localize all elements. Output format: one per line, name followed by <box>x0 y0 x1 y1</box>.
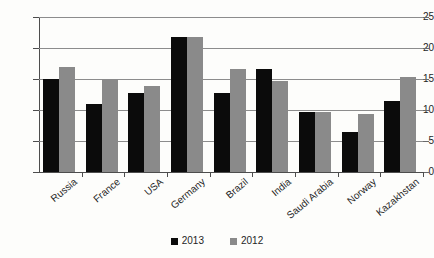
x-label-germany: Germany <box>169 176 208 211</box>
bar-group <box>124 17 167 172</box>
legend-item-2013[interactable]: 2013 <box>171 236 204 246</box>
bar-usa-2012[interactable] <box>144 86 160 172</box>
bar-chart: 25 20 15 10 5 0 RussiaFranceUSAGermanyBr… <box>0 0 434 258</box>
bar-norway-2012[interactable] <box>358 114 374 172</box>
bar-india-2013[interactable] <box>256 69 272 172</box>
black-square-icon <box>171 238 178 245</box>
bar-group <box>252 17 295 172</box>
bar-germany-2013[interactable] <box>171 37 187 172</box>
gray-square-icon <box>230 238 237 245</box>
plot-area <box>39 17 423 172</box>
bar-group <box>295 17 338 172</box>
x-label-kazakhstan: Kazakhstan <box>374 176 421 218</box>
x-tick-mark <box>210 172 211 177</box>
bar-saudi-arabia-2013[interactable] <box>299 112 315 172</box>
x-tick-mark <box>380 172 381 177</box>
x-label-russia: Russia <box>49 176 79 204</box>
bar-group <box>380 17 423 172</box>
bar-kazakhstan-2013[interactable] <box>384 101 400 172</box>
bar-group <box>39 17 82 172</box>
legend-label: 2012 <box>241 236 263 246</box>
x-label-india: India <box>269 176 293 198</box>
bar-brazil-2012[interactable] <box>230 69 246 172</box>
x-tick-mark <box>252 172 253 177</box>
bar-russia-2012[interactable] <box>59 67 75 172</box>
x-tick-mark <box>82 172 83 177</box>
x-tick-mark <box>167 172 168 177</box>
bar-kazakhstan-2012[interactable] <box>400 77 416 172</box>
bar-france-2012[interactable] <box>102 79 118 172</box>
x-tick-mark <box>423 172 424 177</box>
chart-legend: 2013 2012 <box>0 236 434 246</box>
bar-norway-2013[interactable] <box>342 132 358 172</box>
bar-group <box>210 17 253 172</box>
x-tick-mark <box>338 172 339 177</box>
x-label-norway: Norway <box>345 176 378 206</box>
bar-india-2012[interactable] <box>272 81 288 172</box>
bar-france-2013[interactable] <box>86 104 102 172</box>
x-label-brazil: Brazil <box>224 176 250 201</box>
legend-item-2012[interactable]: 2012 <box>230 236 263 246</box>
bar-germany-2012[interactable] <box>187 37 203 172</box>
x-axis-baseline <box>39 172 423 173</box>
x-tick-mark <box>295 172 296 177</box>
bar-group <box>338 17 381 172</box>
bar-russia-2013[interactable] <box>43 79 59 172</box>
bar-group <box>82 17 125 172</box>
bar-group <box>167 17 210 172</box>
x-tick-mark <box>124 172 125 177</box>
bar-brazil-2013[interactable] <box>214 93 230 172</box>
bar-saudi-arabia-2012[interactable] <box>315 112 331 172</box>
legend-label: 2013 <box>182 236 204 246</box>
x-label-usa: USA <box>142 176 165 198</box>
bar-usa-2013[interactable] <box>128 93 144 172</box>
x-label-france: France <box>91 176 122 204</box>
